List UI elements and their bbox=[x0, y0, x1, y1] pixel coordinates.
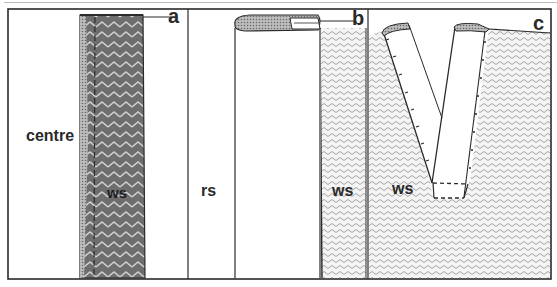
panel-letter-c: c bbox=[533, 13, 544, 33]
label-centre: centre bbox=[26, 128, 74, 144]
panel-c bbox=[369, 23, 550, 278]
panel-a bbox=[80, 15, 175, 278]
rs-facing-white bbox=[234, 29, 321, 278]
panel-letter-a: a bbox=[168, 6, 179, 26]
label-ws-a: ws bbox=[107, 185, 127, 200]
ws-fabric-b bbox=[320, 28, 366, 278]
label-rs-b: rs bbox=[201, 183, 216, 199]
panel-b bbox=[234, 15, 366, 278]
label-ws-b: ws bbox=[332, 183, 353, 199]
facing-strip-dark bbox=[80, 15, 145, 278]
panel-letter-b: b bbox=[352, 8, 364, 28]
label-ws-c: ws bbox=[392, 181, 413, 197]
rolled-top-c-right bbox=[454, 23, 489, 32]
sewing-diagram bbox=[0, 0, 557, 287]
